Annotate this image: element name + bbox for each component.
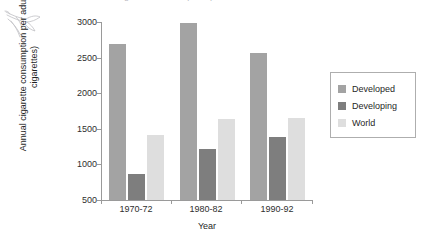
legend-label: Developing (352, 101, 397, 111)
bar-developing-1970-72 (128, 174, 145, 200)
y-tick-label: 1000 (63, 160, 97, 169)
y-tick-label: 2500 (63, 54, 97, 63)
legend-item-developed: Developed (338, 80, 415, 97)
bar-developing-1990-92 (269, 137, 286, 200)
y-tick-label: 1500 (63, 125, 97, 134)
bar-world-1990-92 (288, 118, 305, 200)
y-axis-title: Annual cigarette consumption per adult (… (18, 0, 40, 152)
x-axis-title: Year (101, 221, 313, 231)
bar-world-1970-72 (147, 135, 164, 200)
legend-label: Developed (352, 84, 395, 94)
plot-area (101, 22, 313, 200)
chart-screenshot: Annual cigarette consumption per adult 3… (0, 0, 423, 238)
legend-item-developing: Developing (338, 97, 415, 114)
y-axis-tick (97, 164, 101, 165)
y-axis-tick (97, 22, 101, 23)
y-axis-tick (97, 58, 101, 59)
bar-developed-1980-82 (180, 23, 197, 200)
bar-developed-1990-92 (250, 53, 267, 200)
bar-world-1980-82 (218, 119, 235, 200)
y-tick-label: 3000 (63, 18, 97, 27)
legend-swatch-icon (338, 119, 346, 127)
x-axis-tick-labels: 1970-72 1980-82 1990-92 (101, 204, 313, 218)
x-tick-label: 1980-82 (171, 204, 241, 214)
y-tick-label: 2000 (63, 89, 97, 98)
legend-swatch-icon (338, 102, 346, 110)
x-tick-label: 1970-72 (101, 204, 171, 214)
y-axis-line (101, 22, 102, 200)
chart-legend: Developed Developing World (330, 72, 416, 138)
clipped-chart-title: Annual cigarette consumption per adult (86, 0, 296, 2)
x-tick-label: 1990-92 (242, 204, 312, 214)
y-axis-tick-labels: 3000 2500 2000 1500 1000 500 (57, 22, 97, 200)
legend-label: World (352, 118, 375, 128)
bar-developed-1970-72 (109, 44, 126, 200)
legend-swatch-icon (338, 85, 346, 93)
y-axis-tick (97, 129, 101, 130)
y-axis-tick (97, 93, 101, 94)
y-tick-label: 500 (63, 196, 97, 205)
bar-developing-1980-82 (199, 149, 216, 200)
legend-item-world: World (338, 114, 415, 131)
x-axis-line (101, 200, 313, 201)
